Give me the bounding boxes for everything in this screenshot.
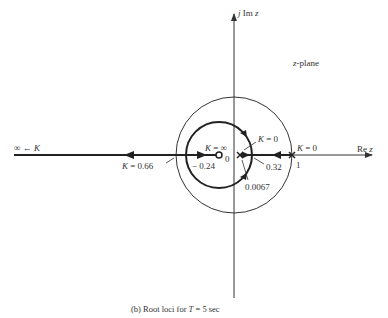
one-label: 1 [296, 160, 301, 170]
root-locus-diagram: j Im z z-plane Re z ∞ ← K K = 0.66 K = ∞… [0, 0, 388, 318]
k0-origin-label: K = 0 [257, 134, 279, 144]
k066-label: K = 0.66 [121, 161, 154, 171]
origin-label: 0 [225, 154, 230, 164]
arrow-left-branch [124, 151, 134, 159]
arrow-pole1-left [272, 151, 281, 159]
figure-caption: (b) Root loci for T = 5 sec [131, 304, 220, 314]
breakaway-label: 0.32 [266, 162, 282, 172]
z-plane-label: z-plane [292, 58, 319, 68]
k0067-label: 0.0067 [245, 182, 270, 192]
real-axis-label: Re z [357, 144, 373, 154]
k-inf-label: K = ∞ [204, 143, 227, 153]
zero-value-label: − 0.24 [192, 161, 216, 171]
k0-one-label: K = 0 [296, 143, 318, 153]
leader-breakaway [254, 158, 264, 164]
leader-k066 [166, 158, 174, 163]
imag-axis-label: j Im z [237, 8, 259, 18]
inf-gain-label: ∞ ← K [14, 143, 41, 153]
